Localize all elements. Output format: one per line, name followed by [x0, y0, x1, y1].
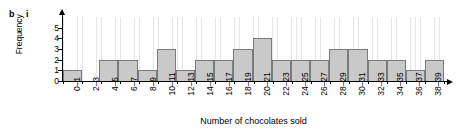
x-tick-label: 16–17: [225, 72, 234, 96]
x-tick-cell: 20–21: [253, 82, 272, 118]
x-tick-cell: 0–1: [63, 82, 82, 118]
y-axis-arrowhead: [59, 9, 65, 15]
y-axis-title: Frequency: [15, 0, 24, 72]
x-tick-cell: 30–31: [349, 82, 368, 118]
figure-subpart-label-i: i: [26, 10, 29, 19]
histogram-figure: b i Frequency 012345 0–12–34–56–78–910–1…: [0, 0, 467, 131]
x-tick-mark: [254, 81, 255, 84]
x-tick-label: 6–7: [130, 77, 139, 91]
x-tick-cell: 38–39: [425, 82, 444, 118]
x-tick-label: 20–21: [263, 72, 272, 96]
x-tick-mark: [368, 81, 369, 84]
y-tick-mark: [58, 60, 63, 61]
x-tick-mark: [387, 81, 388, 84]
x-tick-cell: 22–23: [273, 82, 292, 118]
x-tick-cell: 18–19: [234, 82, 253, 118]
x-tick-mark: [349, 81, 350, 84]
x-tick-mark: [311, 81, 312, 84]
x-tick-mark: [101, 81, 102, 84]
x-tick-label: 12–13: [187, 72, 196, 96]
y-tick-mark: [58, 70, 63, 71]
x-tick-label: 24–25: [301, 72, 310, 96]
plot-area: [63, 17, 444, 81]
x-tick-mark: [425, 81, 426, 84]
x-tick-mark: [330, 81, 331, 84]
x-tick-cell: 32–33: [368, 82, 387, 118]
x-tick-cell: 36–37: [406, 82, 425, 118]
x-tick-label: 0–1: [73, 77, 82, 91]
x-axis-tick-labels: 0–12–34–56–78–910–1112–1314–1516–1718–19…: [63, 82, 444, 118]
x-tick-cell: 24–25: [292, 82, 311, 118]
x-tick-cell: 10–11: [158, 82, 177, 118]
x-tick-cell: 4–5: [101, 82, 120, 118]
x-tick-mark: [120, 81, 121, 84]
x-tick-cell: 12–13: [177, 82, 196, 118]
x-tick-cell: 2–3: [82, 82, 101, 118]
x-tick-cell: 26–27: [311, 82, 330, 118]
x-tick-mark: [63, 81, 64, 84]
x-tick-cell: 34–35: [387, 82, 406, 118]
x-tick-label: 30–31: [358, 72, 367, 96]
x-tick-mark: [158, 81, 159, 84]
x-tick-label: 22–23: [282, 72, 291, 96]
x-tick-label: 38–39: [434, 72, 443, 96]
x-tick-mark: [177, 81, 178, 84]
x-tick-label: 18–19: [244, 72, 253, 96]
x-axis-title: Number of chocolates sold: [63, 117, 444, 126]
x-tick-label: 10–11: [168, 72, 177, 95]
x-tick-cell: 8–9: [139, 82, 158, 118]
x-tick-mark: [139, 81, 140, 84]
x-tick-label: 8–9: [149, 77, 158, 91]
x-tick-cell: 6–7: [120, 82, 139, 118]
x-tick-mark: [406, 81, 407, 84]
x-tick-label: 34–35: [396, 72, 405, 96]
x-tick-mark: [444, 81, 445, 84]
x-tick-mark: [215, 81, 216, 84]
x-tick-mark: [196, 81, 197, 84]
x-tick-mark: [292, 81, 293, 84]
x-axis-arrowhead: [447, 79, 453, 85]
histogram-bars: [63, 17, 444, 81]
x-tick-label: 36–37: [415, 72, 424, 96]
x-tick-mark: [234, 81, 235, 84]
y-tick-mark: [58, 38, 63, 39]
x-tick-mark: [82, 81, 83, 84]
x-tick-label: 28–29: [339, 72, 348, 96]
x-tick-cell: 16–17: [215, 82, 234, 118]
x-tick-label: 32–33: [377, 72, 386, 96]
y-tick-mark: [58, 28, 63, 29]
x-tick-mark: [273, 81, 274, 84]
x-tick-cell: 14–15: [196, 82, 215, 118]
x-tick-label: 4–5: [111, 77, 120, 91]
x-tick-label: 26–27: [320, 72, 329, 96]
x-tick-label: 2–3: [92, 77, 101, 91]
y-tick-mark: [58, 49, 63, 50]
x-tick-label: 14–15: [206, 72, 215, 96]
x-tick-cell: 28–29: [330, 82, 349, 118]
